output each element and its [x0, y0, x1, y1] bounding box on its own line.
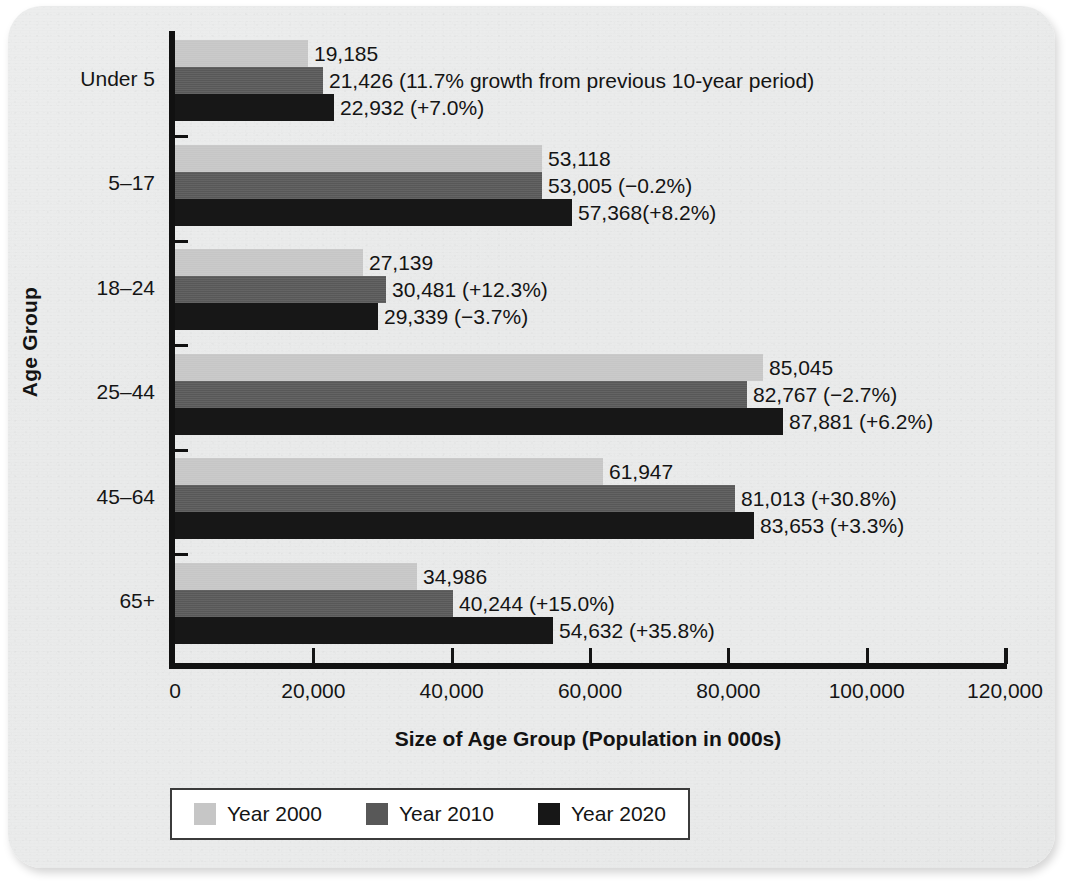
bar-year-2000[interactable]: [175, 563, 417, 590]
y-axis-category-label: 18–24: [25, 276, 155, 300]
x-axis-tick-label: 80,000: [696, 679, 760, 703]
y-axis-tick-labels: Under 55–1718–2425–4445–6465+: [20, 0, 155, 680]
bar-value-label: 83,653 (+3.3%): [754, 512, 904, 539]
bar-value-label: 85,045: [763, 354, 833, 381]
x-axis-tick-label: 60,000: [558, 679, 622, 703]
y-axis-tick: [175, 135, 188, 138]
bar-year-2020[interactable]: [175, 303, 378, 330]
y-axis-tick: [175, 449, 188, 452]
legend-item-year-2000[interactable]: Year 2000: [194, 802, 322, 826]
legend-label: Year 2020: [571, 802, 666, 826]
bar-value-label: 53,005 (−0.2%): [542, 172, 692, 199]
x-axis-line: [169, 663, 1007, 669]
x-axis-title: Size of Age Group (Population in 000s): [169, 727, 1007, 751]
x-axis-tick-label: 120,000: [967, 679, 1043, 703]
x-axis-tick: [1004, 648, 1008, 664]
bar-value-label: 54,632 (+35.8%): [553, 617, 715, 644]
y-axis-category-label: Under 5: [25, 67, 155, 91]
bar-value-label: 34,986: [417, 563, 487, 590]
bar-year-2010[interactable]: [175, 381, 747, 408]
x-axis-tick: [312, 648, 315, 664]
bar-value-label: 27,139: [363, 249, 433, 276]
bar-year-2020[interactable]: [175, 617, 553, 644]
legend-swatch-icon: [194, 803, 216, 825]
y-axis-tick: [175, 553, 188, 556]
bar-year-2010[interactable]: [175, 276, 386, 303]
y-axis-category-label: 65+: [25, 589, 155, 613]
chart-legend: Year 2000Year 2010Year 2020: [170, 788, 690, 840]
bar-year-2010[interactable]: [175, 590, 453, 617]
bar-chart: Age Group Under 55–1718–2425–4445–6465+ …: [0, 0, 1071, 887]
bar-value-label: 40,244 (+15.0%): [453, 590, 615, 617]
legend-item-year-2020[interactable]: Year 2020: [538, 802, 666, 826]
bar-value-label: 57,368(+8.2%): [572, 199, 716, 226]
legend-label: Year 2000: [227, 802, 322, 826]
bar-value-label: 81,013 (+30.8%): [735, 485, 897, 512]
x-axis-tick: [866, 648, 869, 664]
x-axis-tick: [727, 648, 730, 664]
bar-year-2000[interactable]: [175, 145, 542, 172]
bar-year-2010[interactable]: [175, 485, 735, 512]
x-axis-tick-label: 0: [169, 679, 181, 703]
bar-year-2000[interactable]: [175, 40, 308, 67]
legend-swatch-icon: [538, 803, 560, 825]
bar-value-label: 87,881 (+6.2%): [783, 408, 933, 435]
bar-value-label: 30,481 (+12.3%): [386, 276, 548, 303]
bar-year-2020[interactable]: [175, 94, 334, 121]
bar-year-2010[interactable]: [175, 172, 542, 199]
y-axis-tick: [175, 344, 188, 347]
bar-year-2010[interactable]: [175, 67, 323, 94]
x-axis-tick: [589, 648, 592, 664]
bar-year-2000[interactable]: [175, 458, 603, 485]
bar-value-label: 21,426 (11.7% growth from previous 10-ye…: [323, 67, 814, 94]
y-axis-tick: [175, 240, 188, 243]
bar-year-2000[interactable]: [175, 354, 763, 381]
bar-year-2020[interactable]: [175, 512, 754, 539]
x-axis-tick-label: 20,000: [281, 679, 345, 703]
y-axis-category-label: 25–44: [25, 380, 155, 404]
y-axis-category-label: 5–17: [25, 171, 155, 195]
legend-item-year-2010[interactable]: Year 2010: [366, 802, 494, 826]
bar-value-label: 22,932 (+7.0%): [334, 94, 484, 121]
x-axis-tick-label: 100,000: [829, 679, 905, 703]
bar-value-label: 53,118: [542, 145, 611, 172]
legend-swatch-icon: [366, 803, 388, 825]
bar-value-label: 82,767 (−2.7%): [747, 381, 897, 408]
bar-value-label: 61,947: [603, 458, 673, 485]
bar-value-label: 29,339 (−3.7%): [378, 303, 528, 330]
bar-value-label: 19,185: [308, 40, 378, 67]
bar-year-2020[interactable]: [175, 199, 572, 226]
x-axis-tick: [451, 648, 454, 664]
bar-year-2020[interactable]: [175, 408, 783, 435]
legend-label: Year 2010: [399, 802, 494, 826]
y-axis-category-label: 45–64: [25, 485, 155, 509]
bar-year-2000[interactable]: [175, 249, 363, 276]
x-axis-tick-label: 40,000: [420, 679, 484, 703]
